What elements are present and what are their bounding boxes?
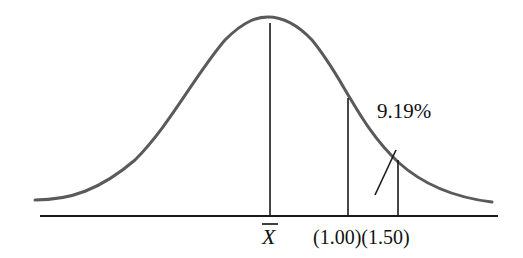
- normal-distribution-diagram: 9.19% X (1.00)(1.50): [0, 0, 523, 258]
- area-percentage-label: 9.19%: [377, 99, 431, 123]
- annotation-leader-line: [375, 150, 396, 195]
- marker-labels: (1.00)(1.50): [313, 226, 410, 249]
- mean-label: X: [261, 224, 277, 249]
